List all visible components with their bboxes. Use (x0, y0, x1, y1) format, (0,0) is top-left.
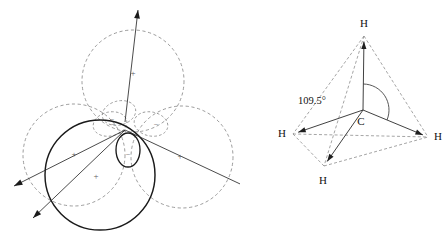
orbital-axis-lower-left (14, 130, 125, 186)
orbital-sign-group: +−+−+−+− (71, 68, 182, 181)
bond-angle-label: 109.5° (298, 95, 326, 106)
tetrahedron-edge-top-left (293, 36, 364, 134)
orbital-lobe-lobe-up (82, 30, 184, 132)
tetrahedron-edge-left-right (293, 134, 428, 137)
orbital-backlobe-lobe-up (99, 97, 138, 129)
tetrahedron-edge-top-bottom (324, 36, 364, 166)
tetrahedron-atom-h-left-label: H (278, 127, 286, 139)
orbital-axis-lower-left-arrowhead (14, 180, 23, 186)
phase-sign-negative-lobe-right: − (154, 120, 159, 129)
orbital-axis-lower-left-2 (33, 130, 125, 218)
tetrahedron-atom-h-bottom-label: H (319, 174, 327, 186)
tetrahedron-atom-h-right-label: H (434, 130, 442, 142)
tetrahedron-bond-c-h-top (363, 41, 364, 110)
phase-sign-negative-lobe-left: − (111, 120, 116, 129)
figure-root: +−+−+−+− 109.5° CHHHH (0, 0, 447, 233)
tetrahedron-bond-c-h-left-arrowhead (298, 127, 306, 132)
orbital-axis-group (14, 10, 240, 218)
orbital-axis-up-arrowhead (134, 10, 140, 19)
phase-sign-positive-lobe-front: + (93, 171, 98, 181)
orbital-axis-up (125, 10, 138, 122)
tetrahedron-bond-c-h-right (363, 110, 423, 135)
phase-sign-positive-lobe-left: + (71, 149, 76, 159)
orbital-lobe-group (23, 30, 233, 230)
phase-sign-negative-lobe-front: − (126, 150, 131, 159)
methane-tetrahedron-diagram: 109.5° CHHHH (240, 0, 447, 233)
phase-sign-positive-lobe-right: + (177, 151, 182, 161)
tetrahedron-atom-h-top-label: H (360, 17, 368, 29)
tetrahedron-bond-c-h-right-arrowhead (415, 130, 423, 135)
tetrahedron-bond-c-h-bottom-arrowhead (327, 154, 333, 162)
tetrahedron-edge-left-bottom (293, 134, 324, 166)
tetrahedron-atom-c-label: C (357, 115, 364, 127)
sp3-orbital-diagram: +−+−+−+− (0, 0, 240, 233)
phase-sign-positive-lobe-up: + (130, 68, 135, 78)
tetrahedron-edge-bottom-right (324, 137, 428, 166)
bond-angle-arc (363, 84, 389, 120)
